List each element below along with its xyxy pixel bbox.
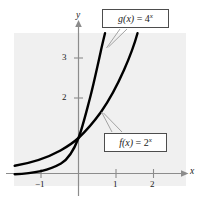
callout-f-function-name: f(x) [119,137,133,148]
callout-f-exponent: x [149,135,152,143]
callout-f-text: f(x) = 2x [119,138,152,148]
y-tick-label-3: 3 [62,53,67,62]
x-axis-label: x [190,167,194,177]
exponential-functions-figure: y x 3 2 −1 1 2 g(x) = 4x f(x) = 2x [0,0,204,203]
callout-f-equals: = [133,137,144,148]
callout-g-equals: = [134,13,145,24]
x-tick-label-2: 2 [150,180,155,189]
callout-box-g-function: g(x) = 4x [102,9,169,28]
plot-area [0,0,204,203]
callout-g-function-name: g(x) [118,13,134,24]
y-axis-label: y [76,11,80,21]
x-tick-label-minus-1: −1 [35,180,45,189]
callout-g-text: g(x) = 4x [118,14,153,24]
y-tick-label-2: 2 [62,93,67,102]
x-tick-label-1: 1 [113,180,118,189]
callout-g-exponent: x [150,11,153,19]
callout-box-f-function: f(x) = 2x [104,133,167,152]
